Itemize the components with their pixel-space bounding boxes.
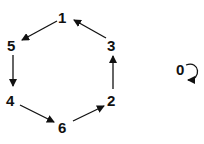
node-6: 6 [58, 119, 66, 136]
node-0: 0 [176, 61, 184, 78]
edge-3-to-1 [74, 20, 106, 38]
node-3: 3 [107, 37, 115, 54]
node-1: 1 [58, 9, 66, 26]
node-5: 5 [7, 37, 15, 54]
graph-canvas: 1 3 2 6 4 5 0 [0, 0, 204, 144]
edge-4-to-6 [20, 105, 54, 122]
node-4: 4 [6, 92, 15, 109]
node-2: 2 [107, 92, 115, 109]
edge-0-self-loop [186, 64, 198, 80]
edge-6-to-2 [73, 106, 104, 121]
edge-1-to-5 [22, 21, 57, 40]
